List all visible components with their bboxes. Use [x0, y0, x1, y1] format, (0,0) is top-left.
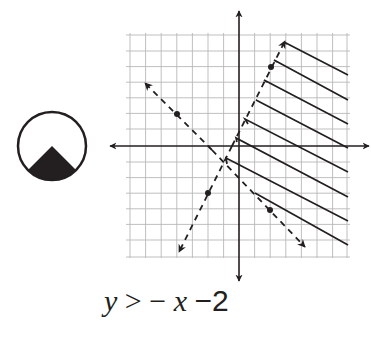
- label-minus-two: −2: [195, 284, 229, 317]
- label-neg: −: [149, 284, 166, 317]
- boundary-line-1: [145, 83, 305, 247]
- axes: [110, 11, 369, 281]
- label-op: >: [125, 284, 142, 317]
- inequality-label: y > − x −2: [104, 284, 229, 318]
- circle-with-filled-triangle-icon: [8, 112, 96, 190]
- label-y: y: [104, 284, 117, 317]
- shaded-solution-region: [226, 42, 348, 245]
- label-x: x: [174, 284, 187, 317]
